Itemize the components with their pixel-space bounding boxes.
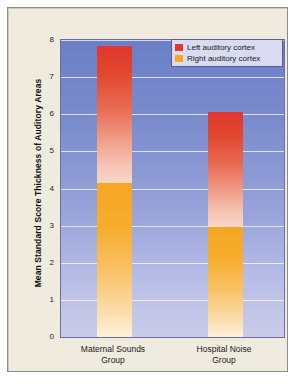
x-axis-label-line: Group (58, 355, 168, 366)
bar-maternal-sounds-group (97, 46, 132, 337)
plot-area (60, 39, 285, 338)
chart-figure: Mean Standard Score Thickness of Auditor… (0, 0, 297, 384)
x-axis-label-line: Hospital Noise (169, 344, 279, 355)
gridline (61, 263, 284, 264)
gridline (61, 77, 284, 78)
gridline (61, 189, 284, 190)
y-axis-tick-label: 6 (32, 110, 54, 118)
bar-hospital-noise-group (208, 112, 243, 337)
x-axis-label-line: Maternal Sounds (58, 344, 168, 355)
y-axis-tick-label: 7 (32, 73, 54, 81)
x-axis-label-hospital-noise-group: Hospital NoiseGroup (169, 344, 279, 366)
bar-segment-right-auditory-cortex (97, 183, 132, 337)
gridline (61, 151, 284, 152)
bar-segment-left-auditory-cortex (97, 46, 132, 183)
legend-label-right-auditory-cortex: Right auditory cortex (187, 54, 260, 63)
x-axis-label-maternal-sounds-group: Maternal SoundsGroup (58, 344, 168, 366)
legend-swatch-right-auditory-cortex (175, 55, 183, 62)
y-axis-tick-label: 4 (32, 185, 54, 193)
chart-legend: Left auditory cortex Right auditory cort… (171, 39, 283, 67)
chart-panel: Mean Standard Score Thickness of Auditor… (7, 7, 288, 372)
legend-label-left-auditory-cortex: Left auditory cortex (187, 43, 255, 52)
y-axis-tick-label: 3 (32, 222, 54, 230)
legend-swatch-left-auditory-cortex (175, 44, 183, 51)
x-axis-label-line: Group (169, 355, 279, 366)
gridline (61, 300, 284, 301)
bar-segment-left-auditory-cortex (208, 112, 243, 227)
y-axis-tick-label: 5 (32, 147, 54, 155)
legend-item-right-auditory-cortex: Right auditory cortex (175, 53, 279, 63)
y-axis-tick-label: 1 (32, 296, 54, 304)
y-axis-tick-label: 0 (32, 333, 54, 341)
bar-segment-right-auditory-cortex (208, 227, 243, 337)
gridline (61, 226, 284, 227)
legend-item-left-auditory-cortex: Left auditory cortex (175, 42, 279, 52)
y-axis-tick-label: 2 (32, 259, 54, 267)
y-axis-tick-label: 8 (32, 36, 54, 44)
gridline (61, 114, 284, 115)
